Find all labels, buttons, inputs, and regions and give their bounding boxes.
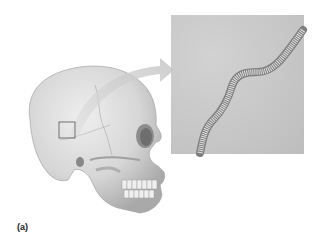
teeth xyxy=(122,180,157,198)
panel-label: (a) xyxy=(17,222,28,232)
skull-illustration xyxy=(0,0,314,246)
suture-band xyxy=(200,30,303,153)
figure: (a) xyxy=(0,0,314,246)
